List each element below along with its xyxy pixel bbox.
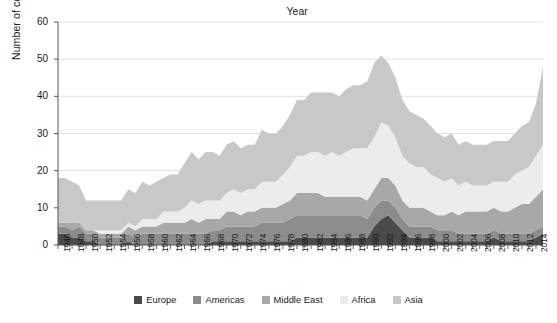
x-axis-tick-label: 1946 (62, 234, 72, 252)
y-axis-tick-label: 20 (18, 165, 48, 176)
x-axis-tick-label: 1962 (174, 234, 184, 252)
y-axis-tick-label: 30 (18, 128, 48, 139)
x-axis-tick-label: 1986 (343, 234, 353, 252)
x-axis-tick-label: 2010 (511, 234, 521, 252)
x-axis-tick-label: 1978 (286, 234, 296, 252)
x-axis-tick-label: 2008 (497, 234, 507, 252)
x-axis-tick-label: 1994 (399, 234, 409, 252)
x-axis-tick-label: 1954 (118, 234, 128, 252)
x-axis-tick-label: 1952 (104, 234, 114, 252)
x-axis-tick-label: 1974 (258, 234, 268, 252)
legend-swatch-icon (340, 296, 348, 304)
legend-label: Middle East (274, 294, 323, 305)
legend-label: Asia (405, 294, 423, 305)
x-axis-tick-label: 1964 (188, 234, 198, 252)
y-axis-tick-label: 10 (18, 202, 48, 213)
x-axis-tick-label: 2006 (483, 234, 493, 252)
x-axis-tick-label: 1966 (202, 234, 212, 252)
x-axis-tick-label: 1972 (244, 234, 254, 252)
x-axis-tick-label: 2002 (455, 234, 465, 252)
x-axis-tick-label: 1980 (300, 234, 310, 252)
x-axis-title: Year (287, 5, 308, 17)
y-axis-tick-label: 0 (18, 239, 48, 250)
x-axis-tick-label: 1990 (371, 234, 381, 252)
legend-swatch-icon (193, 296, 201, 304)
legend-label: Americas (205, 294, 244, 305)
y-axis-tick-label: 50 (18, 53, 48, 64)
x-axis-tick-label: 1998 (427, 234, 437, 252)
legend-label: Africa (352, 294, 376, 305)
legend-swatch-icon (262, 296, 270, 304)
x-axis-tick-label: 2012 (525, 234, 535, 252)
x-axis-tick-label: 1976 (272, 234, 282, 252)
x-axis-tick-label: 1960 (160, 234, 170, 252)
x-axis-tick-label: 1950 (90, 234, 100, 252)
x-axis-tick-label: 1956 (132, 234, 142, 252)
x-axis-tick-label: 1996 (413, 234, 423, 252)
x-axis-tick-label: 1982 (315, 234, 325, 252)
legend-item-middle-east[interactable]: Middle East (262, 294, 323, 305)
x-axis-tick-label: 2014 (539, 234, 549, 252)
x-axis-tick-label: 1958 (146, 234, 156, 252)
legend-label: Europe (146, 294, 176, 305)
x-axis-tick-label: 2000 (441, 234, 451, 252)
legend-swatch-icon (393, 296, 401, 304)
x-axis-tick-label: 1992 (385, 234, 395, 252)
plot-area (0, 0, 557, 323)
x-axis-tick-label: 2004 (469, 234, 479, 252)
conflicts-stacked-area-chart: Number of conflicts Year EuropeAmericasM… (0, 0, 557, 323)
x-axis-tick-label: 1984 (329, 234, 339, 252)
legend-item-europe[interactable]: Europe (134, 294, 176, 305)
y-axis-tick-label: 40 (18, 90, 48, 101)
y-axis-tick-label: 60 (18, 16, 48, 27)
y-axis-title: Number of conflicts (10, 0, 22, 60)
legend-swatch-icon (134, 296, 142, 304)
legend-item-americas[interactable]: Americas (193, 294, 244, 305)
chart-legend: EuropeAmericasMiddle EastAfricaAsia (0, 294, 557, 305)
x-axis-tick-label: 1968 (216, 234, 226, 252)
x-axis-tick-label: 1988 (357, 234, 367, 252)
legend-item-asia[interactable]: Asia (393, 294, 423, 305)
legend-item-africa[interactable]: Africa (340, 294, 376, 305)
x-axis-tick-label: 1948 (76, 234, 86, 252)
x-axis-tick-label: 1970 (230, 234, 240, 252)
